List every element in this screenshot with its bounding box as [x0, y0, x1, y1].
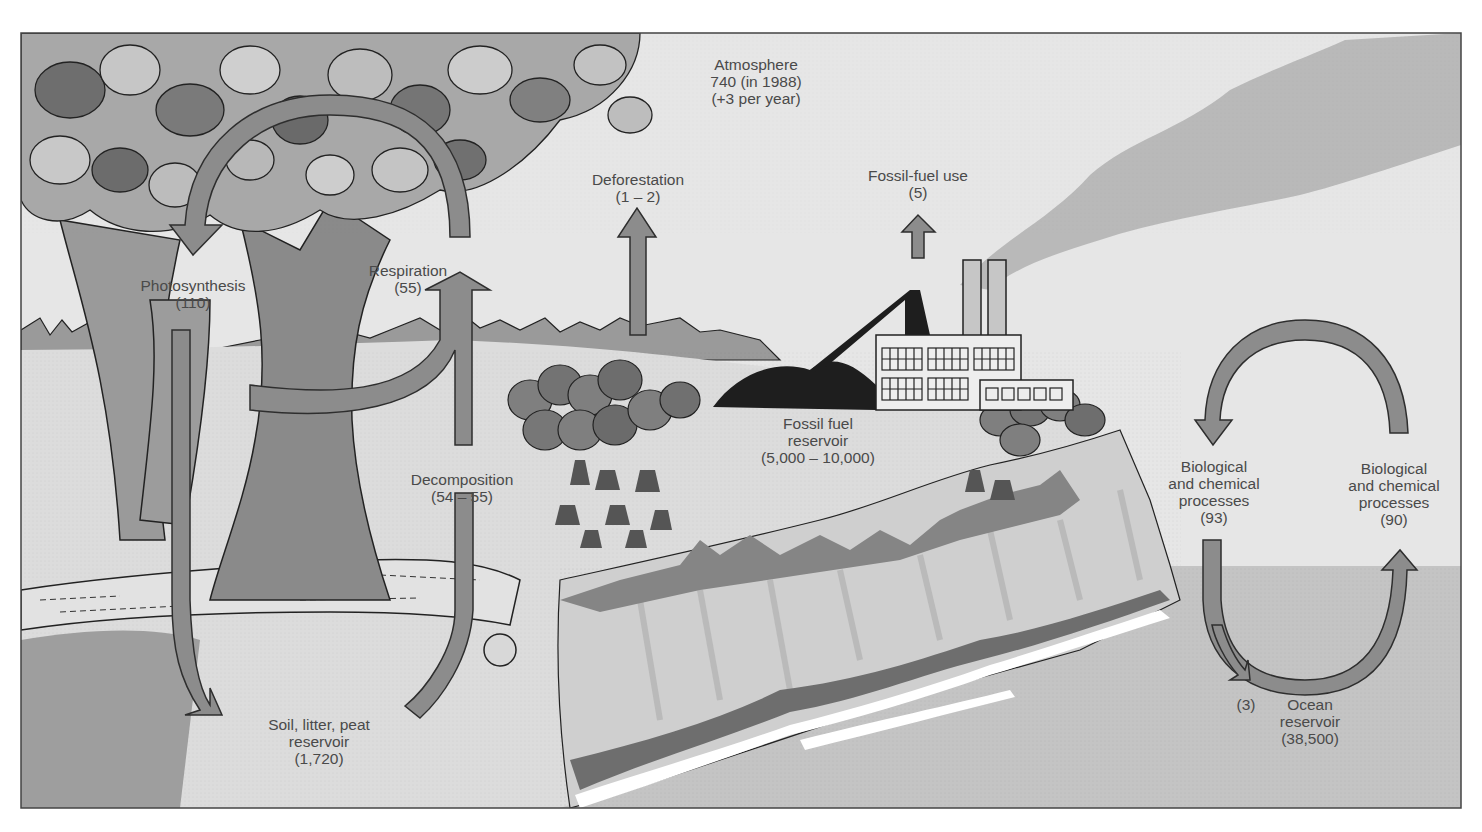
decomposition-value: (54 – 55): [411, 488, 514, 505]
deforestation-value: (1 – 2): [592, 188, 684, 205]
photosynthesis-name: Photosynthesis: [140, 277, 245, 294]
atmosphere-value: 740 (in 1988): [710, 73, 801, 90]
ocean-reservoir-label: Ocean reservoir (38,500): [1280, 696, 1340, 747]
soil-reservoir-line1: Soil, litter, peat: [268, 716, 370, 733]
ocean-sink-value: (3): [1237, 696, 1256, 713]
soil-reservoir-value: (1,720): [268, 750, 370, 767]
soil-reservoir-line2: reservoir: [268, 733, 370, 750]
fossil-fuel-reservoir-value: (5,000 – 10,000): [761, 449, 875, 466]
decomposition-label: Decomposition (54 – 55): [411, 471, 514, 505]
left-ground-shadow: [21, 631, 200, 808]
soil-reservoir-label: Soil, litter, peat reservoir (1,720): [268, 716, 370, 767]
ocean-reservoir-line2: reservoir: [1280, 713, 1340, 730]
ocean-reservoir-value: (38,500): [1280, 730, 1340, 747]
bio-chem-right-line2: and chemical: [1348, 477, 1439, 494]
decomposition-name: Decomposition: [411, 471, 514, 488]
atmosphere-change: (+3 per year): [710, 90, 801, 107]
bio-chem-left-line1: Biological: [1168, 458, 1259, 475]
bio-chem-right-line1: Biological: [1348, 460, 1439, 477]
photosynthesis-label: Photosynthesis (110): [140, 277, 245, 311]
atmosphere-name: Atmosphere: [710, 56, 801, 73]
respiration-name: Respiration: [369, 262, 447, 279]
bio-chem-left-line3: processes: [1168, 492, 1259, 509]
fossil-fuel-use-value: (5): [868, 184, 968, 201]
bio-chem-processes-left-label: Biological and chemical processes (93): [1168, 458, 1259, 526]
bio-chem-right-line3: processes: [1348, 494, 1439, 511]
bio-chem-processes-right-label: Biological and chemical processes (90): [1348, 460, 1439, 528]
fossil-fuel-reservoir-label: Fossil fuel reservoir (5,000 – 10,000): [761, 415, 875, 466]
respiration-value: (55): [369, 279, 447, 296]
bio-chem-left-value: (93): [1168, 509, 1259, 526]
ocean-sink-label: (3): [1237, 696, 1256, 713]
deforestation-label: Deforestation (1 – 2): [592, 171, 684, 205]
photosynthesis-value: (110): [140, 294, 245, 311]
log-end: [484, 634, 516, 666]
bio-chem-right-value: (90): [1348, 511, 1439, 528]
fossil-fuel-reservoir-line1: Fossil fuel: [761, 415, 875, 432]
fossil-fuel-use-label: Fossil-fuel use (5): [868, 167, 968, 201]
fossil-fuel-use-name: Fossil-fuel use: [868, 167, 968, 184]
fossil-fuel-reservoir-line2: reservoir: [761, 432, 875, 449]
ocean-reservoir-line1: Ocean: [1280, 696, 1340, 713]
bio-chem-left-line2: and chemical: [1168, 475, 1259, 492]
deforestation-name: Deforestation: [592, 171, 684, 188]
carbon-cycle-illustration: [0, 0, 1482, 832]
respiration-label: Respiration (55): [369, 262, 447, 296]
atmosphere-label: Atmosphere 740 (in 1988) (+3 per year): [710, 56, 801, 107]
